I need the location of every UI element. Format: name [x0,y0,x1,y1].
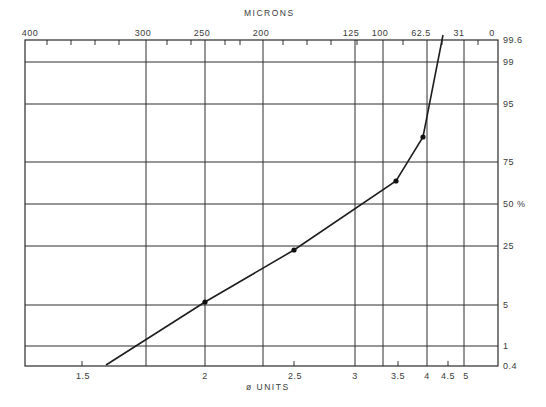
cumulative-curve [106,35,443,365]
phi-tick-label: 3 [352,371,358,381]
phi-tick-label: 4 [424,371,430,381]
phi-tick-label: 1.5 [76,371,90,381]
percent-tick-label: 25 [503,241,514,251]
percent-tick-label: 0.4 [503,361,517,371]
micron-tick-label: 250 [194,28,211,38]
top-axis-title: MICRONS [244,8,295,18]
micron-tick-label: 62.5 [411,28,431,38]
phi-tick-label: 3.5 [391,371,405,381]
percent-tick-label: 95 [503,99,514,109]
data-point [202,299,207,304]
data-point [291,247,296,252]
data-point [393,178,398,183]
data-point [420,134,425,139]
micron-tick-label: 125 [343,28,360,38]
percent-tick-label: 50 % [503,199,526,209]
percent-tick-label: 1 [503,341,509,351]
phi-tick-label: 2 [202,371,208,381]
top-axis-micron-labels: 40030025020012510062.5310 [22,28,495,38]
micron-tick-label: 100 [372,28,389,38]
grid-lines [25,40,498,366]
micron-tick-label: 200 [253,28,270,38]
micron-tick-label: 31 [453,28,464,38]
bottom-axis-phi-labels: 1.522.533.544.55 [76,371,469,381]
percent-tick-label: 99.6 [503,35,523,45]
micron-tick-label: 0 [489,28,495,38]
phi-tick-label: 4.5 [441,371,455,381]
grain-size-chart: 40030025020012510062.5310 99.699957550 %… [0,0,546,407]
bottom-axis-title: ø UNITS [246,382,290,392]
phi-tick-label: 5 [463,371,469,381]
percent-tick-label: 5 [503,300,509,310]
percent-tick-label: 99 [503,57,514,67]
right-axis-percent-labels: 99.699957550 %25510.4 [503,35,526,371]
percent-tick-label: 75 [503,157,514,167]
micron-tick-label: 400 [22,28,39,38]
micron-tick-label: 300 [135,28,152,38]
phi-tick-label: 2.5 [288,371,302,381]
data-point-markers [202,134,425,304]
